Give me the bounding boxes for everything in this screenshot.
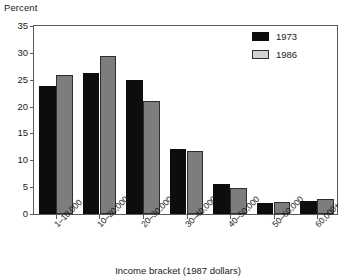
bar[interactable] xyxy=(83,73,100,214)
y-axis-tick-label: 30 xyxy=(17,47,28,58)
y-axis-tick-label: 10 xyxy=(17,154,28,165)
y-axis-tick-label: 20 xyxy=(17,101,28,112)
bar[interactable] xyxy=(257,203,274,214)
bar[interactable] xyxy=(126,80,143,214)
bar[interactable] xyxy=(170,149,187,214)
bar-group xyxy=(213,26,247,214)
y-axis-tick-mark xyxy=(30,214,34,215)
y-axis-tick-label: 0 xyxy=(23,208,28,219)
bar[interactable] xyxy=(100,56,117,214)
y-axis-tick-label: 25 xyxy=(17,74,28,85)
legend-item[interactable]: 1973 xyxy=(252,29,318,44)
legend-item-label: 1973 xyxy=(276,31,297,42)
bar[interactable] xyxy=(56,75,73,214)
y-axis-tick-label: 35 xyxy=(17,20,28,31)
bar-group xyxy=(126,26,160,214)
bar-group xyxy=(39,26,73,214)
bar-group xyxy=(170,26,204,214)
legend-color-swatch xyxy=(252,32,269,41)
y-axis-tick-label: 5 xyxy=(23,181,28,192)
chart-page: Percent 05101520253035 1–10,00010–20,000… xyxy=(0,0,356,276)
x-axis-title: Income bracket (1987 dollars) xyxy=(0,265,356,276)
bar[interactable] xyxy=(39,86,56,214)
bar-group xyxy=(83,26,117,214)
legend-item[interactable]: 1986 xyxy=(252,47,318,62)
y-axis-tick-label: 15 xyxy=(17,127,28,138)
legend-item-label: 1986 xyxy=(276,49,297,60)
y-axis-title: Percent xyxy=(4,2,37,13)
chart-legend: 19731986 xyxy=(252,29,318,65)
bar[interactable] xyxy=(143,101,160,214)
legend-color-swatch xyxy=(252,50,269,59)
